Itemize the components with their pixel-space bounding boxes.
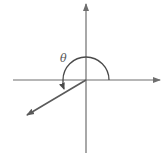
angle-diagram: θ — [0, 0, 164, 158]
terminal-ray — [27, 80, 86, 115]
angle-label: θ — [60, 52, 67, 65]
